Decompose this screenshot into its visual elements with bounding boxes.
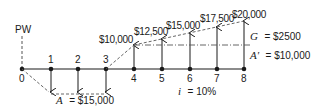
period-label-1: 1	[48, 54, 54, 65]
base-a-prime-label: A' = $10,000	[249, 45, 311, 62]
gradient-value-8: $20,000	[232, 9, 267, 20]
gradient-value-7: $17,500	[200, 13, 235, 24]
gradient-value-5: $12,500	[134, 26, 169, 37]
annuity-dashed-diagonal	[22, 69, 49, 92]
period-label-8: 8	[241, 73, 247, 84]
annuity-arrows	[51, 69, 106, 92]
period-label-4: 4	[131, 73, 137, 84]
period-label-7: 7	[214, 73, 220, 84]
period-label-2: 2	[75, 54, 81, 65]
gradient-value-6: $15,000	[166, 20, 201, 31]
annuity-label: A = $15,000	[55, 90, 114, 107]
period-label-6: 6	[187, 73, 193, 84]
interest-rate-label: i = 10%	[178, 81, 216, 98]
period-label-5: 5	[159, 73, 165, 84]
cash-flow-diagram: PW 0 1 2 3 4 5 6 7 8 A = $15,000	[0, 0, 312, 111]
pw-label: PW	[15, 24, 32, 35]
gradient-value-4: $10,000	[99, 34, 134, 45]
gradient-dashed-rise	[106, 45, 134, 69]
period-label-3: 3	[103, 54, 109, 65]
period-label-0: 0	[19, 73, 25, 84]
gradient-g-label: G = $2500	[250, 26, 301, 43]
